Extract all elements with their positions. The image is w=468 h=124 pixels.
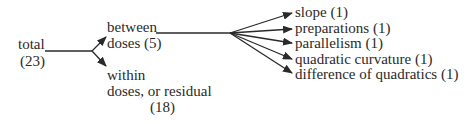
root-df: (23) xyxy=(20,53,45,69)
within-label-line1: within xyxy=(107,67,145,83)
arrow-to-quadratic-curvature xyxy=(230,33,292,59)
within-label-line3: (18) xyxy=(150,99,175,115)
within-label-line2: doses, or residual xyxy=(107,83,212,99)
arrow-to-within xyxy=(92,51,106,66)
between-label-line1: between xyxy=(107,19,157,35)
component-parallelism: parallelism (1) xyxy=(295,35,383,51)
root-label: total xyxy=(18,36,45,52)
between-label-line2: doses (5) xyxy=(107,35,162,51)
arrow-to-difference-of-quadratics xyxy=(230,33,292,73)
component-slope: slope (1) xyxy=(295,4,348,20)
arrow-to-parallelism xyxy=(230,33,292,43)
arrow-to-between xyxy=(92,37,106,51)
component-preparations: preparations (1) xyxy=(295,20,390,36)
component-quadratic-curvature: quadratic curvature (1) xyxy=(295,51,432,67)
component-difference-of-quadratics: difference of quadratics (1) xyxy=(295,66,458,82)
